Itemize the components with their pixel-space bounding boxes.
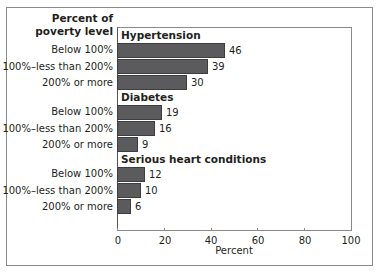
bar-hypertension-200-plus xyxy=(117,75,187,90)
bar-heart-below-100 xyxy=(117,167,145,182)
category-label: 200% or more xyxy=(42,77,113,89)
category-label: Below 100% xyxy=(51,106,113,118)
category-label: Below 100% xyxy=(51,168,113,180)
group-title-diabetes: Diabetes xyxy=(121,91,173,104)
value-label: 6 xyxy=(135,201,141,213)
value-label: 16 xyxy=(159,123,172,135)
value-label: 10 xyxy=(145,185,158,197)
x-tick xyxy=(117,228,118,231)
x-tick-label: 80 xyxy=(299,235,312,247)
x-tick xyxy=(351,228,352,231)
x-tick-label: 20 xyxy=(159,235,172,247)
category-label: Below 100% xyxy=(51,44,113,56)
category-label: 100%–less than 200% xyxy=(2,61,113,73)
x-tick-label: 60 xyxy=(252,235,265,247)
value-label: 30 xyxy=(191,77,204,89)
bar-hypertension-below-100 xyxy=(117,43,225,58)
bar-hypertension-100-200 xyxy=(117,59,208,74)
x-tick xyxy=(211,228,212,231)
y-axis-title-line1: Percent of xyxy=(35,12,113,25)
x-tick xyxy=(164,228,165,231)
category-label: 100%–less than 200% xyxy=(2,185,113,197)
value-label: 39 xyxy=(212,61,225,73)
bar-heart-200-plus xyxy=(117,199,131,214)
x-axis-title: Percent xyxy=(215,245,253,257)
x-tick-label: 100 xyxy=(341,235,360,247)
bar-heart-100-200 xyxy=(117,183,141,198)
y-axis-title-line2: poverty level xyxy=(35,25,113,38)
value-label: 9 xyxy=(142,139,148,151)
group-title-hypertension: Hypertension xyxy=(121,29,201,42)
value-label: 46 xyxy=(229,45,242,57)
bar-diabetes-100-200 xyxy=(117,121,155,136)
y-axis-title: Percent of poverty level xyxy=(35,12,113,37)
category-label: 100%–less than 200% xyxy=(2,123,113,135)
category-label: 200% or more xyxy=(42,139,113,151)
group-title-heart-conditions: Serious heart conditions xyxy=(121,153,266,166)
x-tick xyxy=(257,228,258,231)
x-tick xyxy=(304,228,305,231)
bar-diabetes-200-plus xyxy=(117,137,138,152)
value-label: 19 xyxy=(166,107,179,119)
x-tick-label: 0 xyxy=(115,235,121,247)
category-label: 200% or more xyxy=(42,201,113,213)
bar-diabetes-below-100 xyxy=(117,105,162,120)
value-label: 12 xyxy=(149,169,162,181)
